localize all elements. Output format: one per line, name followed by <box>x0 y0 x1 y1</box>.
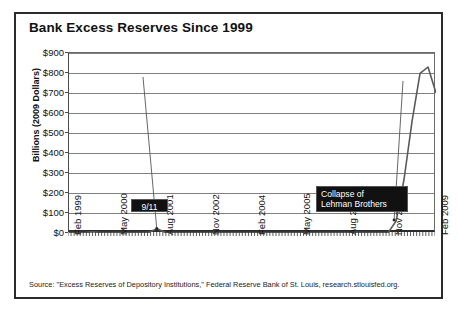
y-axis-tick-mark <box>65 72 68 73</box>
x-axis-tick-label: Feb 2009 <box>439 195 450 235</box>
y-axis-tick-label: $500 <box>43 127 64 138</box>
y-axis-tick-label: $400 <box>43 147 64 158</box>
plot-wrapper: $900$800$700$600$500$400$300$200$100$0 F… <box>68 52 445 242</box>
y-axis-tick-mark <box>65 172 68 173</box>
x-axis-tick-label: Feb 1999 <box>72 195 83 235</box>
chart-figure: Bank Excess Reserves Since 1999 Billions… <box>14 12 443 299</box>
y-axis-tick-mark <box>65 132 68 133</box>
y-axis-tick-label: $900 <box>43 47 64 58</box>
y-axis-tick-label: $600 <box>43 107 64 118</box>
y-axis-tick-mark <box>65 52 68 53</box>
y-axis-title: Billions (2009 Dollars) <box>31 40 41 190</box>
x-axis-tick-label: Feb 2004 <box>256 195 267 235</box>
y-axis-tick-label: $700 <box>43 87 64 98</box>
x-axis-tick-marks <box>68 232 435 238</box>
y-axis-tick-label: $0 <box>53 227 64 238</box>
page-title: Bank Excess Reserves Since 1999 <box>29 20 253 35</box>
x-axis-tick-label: May 2000 <box>118 193 129 235</box>
annotation-lehman: Collapse of Lehman Brothers <box>316 186 408 212</box>
y-axis-tick-label: $100 <box>43 207 64 218</box>
x-axis-tick-label: Nov 2002 <box>210 194 221 235</box>
y-axis-tick-mark <box>65 192 68 193</box>
y-axis-tick-mark <box>65 212 68 213</box>
y-axis-tick-mark <box>65 152 68 153</box>
y-axis-tick-label: $800 <box>43 67 64 78</box>
y-axis-tick-mark <box>65 92 68 93</box>
y-axis-tick-label: $300 <box>43 167 64 178</box>
y-axis-tick-label: $200 <box>43 187 64 198</box>
x-axis-tick-label: May 2005 <box>301 193 312 235</box>
annotation-911: 9/11 <box>131 199 168 212</box>
source-note: Source: "Excess Reserves of Depository I… <box>29 280 399 289</box>
y-axis-tick-mark <box>65 112 68 113</box>
